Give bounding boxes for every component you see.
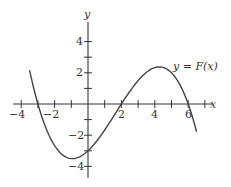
x-tick-label: 4 xyxy=(151,108,158,121)
x-tick-label: −4 xyxy=(9,108,25,121)
x-tick-label: 6 xyxy=(185,108,192,121)
chart: x y −4 −2 2 4 6 4 2 −2 −4 y = F(x) xyxy=(0,0,231,187)
y-tick-label: 4 xyxy=(76,35,83,48)
y-tick-label: 2 xyxy=(76,66,83,79)
x-tick-label: −2 xyxy=(43,108,59,121)
y-tick-label: −4 xyxy=(68,160,84,173)
curve-label: y = F(x) xyxy=(172,60,218,73)
x-axis-label: x xyxy=(210,98,217,111)
y-tick-label: −2 xyxy=(68,129,84,142)
x-tick-label: 2 xyxy=(118,108,125,121)
y-axis-label: y xyxy=(83,8,91,21)
axes xyxy=(13,22,212,178)
